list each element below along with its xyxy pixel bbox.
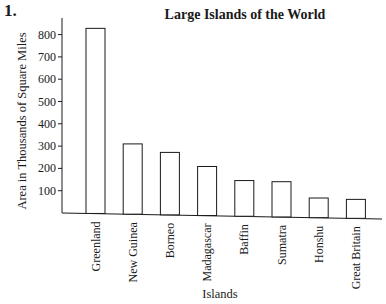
y-tick-label: 300 (38, 139, 56, 153)
bar-greenland (86, 28, 105, 213)
y-tick-label: 800 (38, 28, 56, 42)
category-label: Greenland (89, 221, 103, 271)
category-label: New Guinea (126, 221, 140, 282)
y-tick-label: 100 (38, 184, 56, 198)
bar-new-guinea (123, 144, 142, 214)
bar-borneo (160, 152, 179, 214)
y-tick-label: 500 (38, 95, 56, 109)
category-label: Madagascar (200, 224, 214, 282)
category-label: Honshu (312, 226, 326, 263)
bar-madagascar (198, 166, 217, 215)
category-label: Great Britain (349, 226, 363, 289)
bar-chart: 100200300400500600700800GreenlandNew Gui… (0, 0, 386, 304)
bar-honshu (309, 198, 328, 218)
category-label: Baffin (237, 224, 251, 254)
y-tick-label: 400 (38, 117, 56, 131)
bar-great-britain (346, 199, 365, 218)
category-label: Sumatra (275, 224, 289, 265)
y-tick-label: 200 (38, 161, 56, 175)
bar-baffin (235, 181, 254, 217)
y-tick-label: 700 (38, 50, 56, 64)
y-tick-label: 600 (38, 72, 56, 86)
bar-sumatra (272, 182, 291, 217)
x-axis (62, 213, 382, 219)
category-label: Borneo (163, 223, 177, 258)
